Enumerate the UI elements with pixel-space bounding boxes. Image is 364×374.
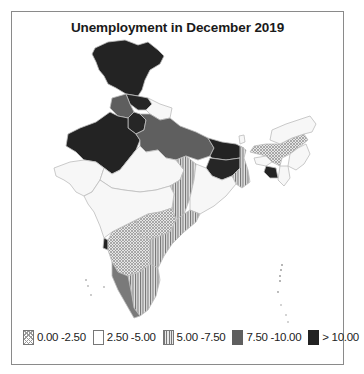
region-bihar [208,138,244,160]
crosshatch-swatch-icon [23,330,34,345]
striped-swatch-icon [163,330,174,345]
lakshadweep-islands [85,279,105,296]
legend-label: 2.50 -5.00 [107,331,156,343]
region-sikkim [239,135,245,144]
india-choropleth-map [0,0,355,330]
region-mizoram [278,166,290,186]
black-swatch-icon [308,330,319,345]
legend-item-0-2-5: 0.00 -2.50 [23,330,86,345]
legend-item-7-5-10: 7.50 -10.00 [232,330,301,345]
map-legend: 0.00 -2.50 2.50 -5.00 5.00 -7.50 7.50 -1… [11,329,364,345]
legend-item-5-7-5: 5.00 -7.50 [163,330,226,345]
region-tripura [264,166,278,178]
legend-label: 7.50 -10.00 [246,331,301,343]
legend-label: 5.00 -7.50 [177,331,226,343]
legend-item-2-5-5: 2.50 -5.00 [93,330,156,345]
legend-label: 0.00 -2.50 [37,331,86,343]
andaman-nicobar-islands [277,264,289,323]
white-swatch-icon [93,330,104,345]
region-goa [103,238,108,250]
legend-label: > 10.00 [322,331,359,343]
legend-item-over-10: > 10.00 [308,330,359,345]
gray-swatch-icon [232,330,243,345]
region-jammu-kashmir [92,40,164,96]
